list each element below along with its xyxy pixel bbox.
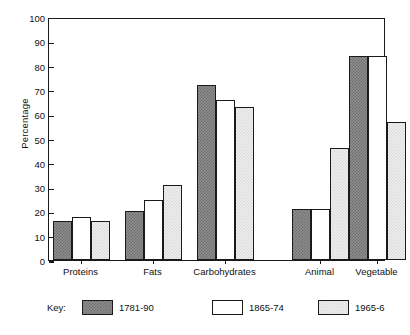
legend-title: Key:	[47, 301, 66, 314]
bar	[91, 221, 110, 260]
bar-group	[197, 19, 254, 260]
y-tick-label: 60	[34, 109, 45, 122]
y-tick-label: 20	[34, 206, 45, 219]
legend-label: 1865-74	[249, 301, 284, 314]
bar-group	[292, 19, 349, 260]
bar	[235, 107, 254, 260]
y-tick-label: 90	[34, 36, 45, 49]
legend-swatch	[82, 300, 113, 315]
y-tick-label: 10	[34, 231, 45, 244]
bar	[144, 200, 163, 260]
bar-group	[125, 19, 182, 260]
bar	[53, 221, 72, 260]
bar	[163, 185, 182, 260]
y-tick-label: 70	[34, 85, 45, 98]
legend-swatch	[212, 300, 243, 315]
legend-label: 1965-6	[355, 301, 385, 314]
x-axis-label: Vegetable	[317, 266, 410, 278]
plot-area: 0102030405060708090100	[48, 18, 385, 261]
x-axis-tick	[320, 260, 321, 264]
bar	[125, 211, 144, 260]
y-tick-label: 100	[29, 12, 45, 25]
x-axis-tick	[225, 260, 226, 264]
legend-label: 1781-90	[119, 301, 154, 314]
bar	[349, 56, 368, 260]
x-axis-tick	[153, 260, 154, 264]
bar	[330, 148, 349, 260]
y-tick-label: 50	[34, 134, 45, 147]
x-axis-tick	[377, 260, 378, 264]
legend-swatch	[318, 300, 349, 315]
chart-legend: Key: 1781-901865-741965-6	[0, 296, 395, 322]
bar	[387, 122, 406, 261]
bar	[311, 209, 330, 260]
bar	[368, 56, 387, 260]
y-tick-mark	[49, 261, 54, 262]
bar	[197, 85, 216, 260]
bar	[72, 217, 91, 260]
y-axis-label: Percentage	[19, 74, 30, 174]
y-tick-label: 80	[34, 61, 45, 74]
x-axis-tick	[81, 260, 82, 264]
plot-inner: 0102030405060708090100	[49, 19, 384, 260]
bar	[216, 100, 235, 260]
bar	[292, 209, 311, 260]
y-tick-label: 30	[34, 182, 45, 195]
bar-group	[349, 19, 406, 260]
y-tick-label: 40	[34, 158, 45, 171]
bar-group	[53, 19, 110, 260]
